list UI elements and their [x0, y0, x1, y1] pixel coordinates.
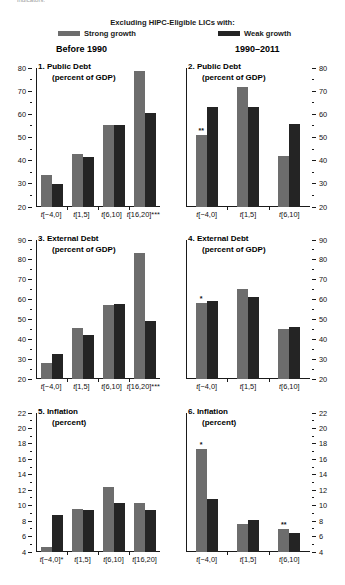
bar-group	[36, 413, 67, 552]
y-tick-mark	[312, 207, 316, 208]
legend-swatch-icon-strong	[58, 31, 80, 36]
y-tick-mark	[312, 299, 316, 300]
x-axis-label: t[1,5]	[227, 210, 268, 224]
y-tick-label: 14	[319, 470, 327, 479]
x-axis-label: t[1,5]	[227, 555, 268, 569]
y-tick-mark-minor	[30, 451, 32, 452]
y-tick-mark-minor	[312, 349, 314, 350]
bar-group: *	[186, 413, 227, 552]
y-tick-mark	[28, 474, 32, 475]
bar	[207, 499, 218, 552]
y-tick-mark-minor	[30, 309, 32, 310]
x-axis-label: t[1,5]	[66, 382, 96, 396]
y-axis-ticks-5: 46810121416182022	[2, 413, 32, 552]
legend-swatch-icon-weak	[218, 31, 240, 36]
y-tick-mark-minor	[30, 289, 32, 290]
y-tick-mark-minor	[30, 544, 32, 545]
x-axis-labels-6: t[−4,0]t[1,5]t[6,10]	[186, 555, 310, 569]
bar-groups: *	[186, 240, 310, 379]
y-tick-label: 30	[18, 179, 26, 188]
y-tick-mark-minor	[312, 309, 314, 310]
y-tick-mark-minor	[30, 172, 32, 173]
bar	[83, 510, 94, 552]
bar-group	[269, 240, 310, 379]
bar-group	[36, 68, 67, 207]
y-tick-mark-minor	[30, 528, 32, 529]
bar-groups	[36, 240, 160, 379]
bar	[289, 327, 300, 379]
y-tick-label: 18	[18, 439, 26, 448]
y-tick-mark	[28, 137, 32, 138]
bar	[83, 335, 94, 379]
plot-area-2: **	[186, 68, 310, 207]
y-tick-mark	[28, 160, 32, 161]
significance-marker: *	[200, 295, 203, 303]
y-tick-mark	[312, 68, 316, 69]
y-tick-mark	[312, 379, 316, 380]
y-tick-mark-minor	[312, 369, 314, 370]
y-tick-mark-minor	[312, 125, 314, 126]
y-tick-label: 60	[319, 295, 327, 304]
legend-label-weak: Weak growth	[244, 29, 291, 38]
y-tick-mark	[28, 359, 32, 360]
bar	[83, 157, 94, 207]
bar	[52, 184, 63, 207]
y-tick-mark	[28, 490, 32, 491]
y-tick-label: 60	[18, 110, 26, 119]
bar	[134, 253, 145, 379]
x-axis-label: t[6,10]	[98, 555, 129, 569]
y-tick-mark-minor	[30, 513, 32, 514]
y-axis-ticks-3: 2030405060708090	[2, 240, 32, 379]
y-tick-mark-minor	[30, 497, 32, 498]
y-tick-label: 4	[22, 548, 26, 557]
y-tick-mark-minor	[312, 451, 314, 452]
x-axis-label: t[6,10]	[269, 555, 310, 569]
y-axis-ticks-2: 20304050607080	[312, 68, 342, 207]
bar-group	[227, 68, 268, 207]
y-tick-label: 20	[319, 424, 327, 433]
y-tick-mark-minor	[30, 467, 32, 468]
y-tick-mark	[28, 443, 32, 444]
y-tick-mark	[312, 536, 316, 537]
bar	[237, 87, 248, 207]
y-tick-label: 80	[18, 64, 26, 73]
y-tick-mark-minor	[30, 125, 32, 126]
bar-group: **	[186, 68, 227, 207]
y-tick-label: 12	[18, 486, 26, 495]
plot-area-4: *	[186, 240, 310, 379]
x-axis-label: t[−4,0]	[36, 382, 66, 396]
cut-off-caption-text: indicators.	[17, 0, 45, 4]
chart-panel-5: 5. Inflation(percent)46810121416182022t[…	[0, 407, 172, 581]
y-tick-label: 70	[319, 275, 327, 284]
bar: **	[196, 135, 207, 207]
x-axis-label: t[16,20]***	[127, 382, 160, 396]
y-tick-mark	[312, 91, 316, 92]
y-tick-label: 22	[319, 409, 327, 418]
bar-group	[36, 240, 67, 379]
chart-panel-2: 2. Public Debt(percent of GDP)**20304050…	[172, 62, 344, 236]
x-axis-label: t[−4,0]	[186, 555, 227, 569]
y-tick-mark-minor	[30, 195, 32, 196]
x-axis-label: t[1,5]	[227, 382, 268, 396]
y-tick-mark	[312, 114, 316, 115]
y-tick-mark	[28, 207, 32, 208]
legend-items: Strong growth Weak growth	[0, 29, 345, 41]
y-tick-mark	[312, 521, 316, 522]
y-tick-mark-minor	[30, 329, 32, 330]
y-tick-mark	[312, 259, 316, 260]
bar-group	[98, 413, 129, 552]
bar-group	[67, 240, 98, 379]
bar-groups: **	[186, 68, 310, 207]
y-tick-mark-minor	[30, 149, 32, 150]
y-axis-ticks-1: 20304050607080	[2, 68, 32, 207]
y-tick-mark-minor	[312, 544, 314, 545]
bar	[52, 354, 63, 379]
y-tick-mark	[312, 459, 316, 460]
x-axis-labels-4: t[−4,0]t[1,5]t[6,10]	[186, 382, 310, 396]
y-tick-label: 80	[319, 255, 327, 264]
y-tick-label: 40	[18, 335, 26, 344]
x-axis-label: t[−4,0]*	[36, 555, 67, 569]
y-tick-label: 50	[18, 133, 26, 142]
y-tick-label: 16	[319, 455, 327, 464]
panel-grid: 1. Public Debt(percent of GDP)2030405060…	[0, 62, 345, 585]
